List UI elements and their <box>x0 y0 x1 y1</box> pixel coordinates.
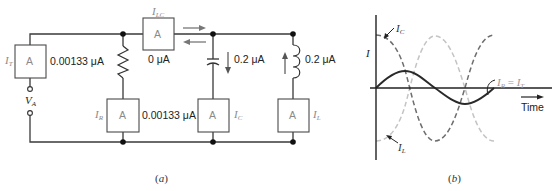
meter-ir-reading: 0.00133 μA <box>142 109 196 121</box>
current-arrows-icon <box>183 25 206 45</box>
caption-a: (a) <box>155 172 168 185</box>
meter-it-glyph: A <box>26 55 33 67</box>
node-dot <box>210 139 216 145</box>
meter-it-reading: 0.00133 μA <box>50 55 104 67</box>
waveform-graph-b: I Time IC IL IR = IT (b) <box>365 15 552 185</box>
inductor-current-arrow-icon <box>282 52 288 74</box>
meter-ic-label: IC <box>233 108 243 122</box>
meter-il-label: IL <box>312 108 321 122</box>
caption-b: (b) <box>448 172 461 185</box>
meter-it-label: IT <box>4 54 14 68</box>
ic-pointer-icon <box>384 28 394 39</box>
meter-ic-glyph: A <box>209 109 216 121</box>
capacitor-current-arrow-icon <box>225 52 231 74</box>
node-dot <box>210 31 216 37</box>
node-dot <box>290 139 296 145</box>
x-axis-label: Time <box>521 101 544 113</box>
ic-curve-label: IC <box>395 22 405 36</box>
figure-canvas: A IT 0.00133 μA VA A IR 0.00133 μA A ILC… <box>0 0 552 191</box>
node-dot <box>290 31 296 37</box>
source-label: VA <box>25 94 37 108</box>
terminal-bottom-icon <box>28 111 33 116</box>
capacitor-current-reading: 0.2 μA <box>234 53 265 65</box>
meter-ilc-label: ILC <box>151 5 165 19</box>
y-axis-label: I <box>365 47 371 59</box>
circuit-diagram-a: A IT 0.00133 μA VA A IR 0.00133 μA A ILC… <box>4 5 336 185</box>
meter-ir-glyph: A <box>119 109 126 121</box>
meter-ir-label: IR <box>94 108 104 122</box>
meter-il-glyph: A <box>289 109 296 121</box>
terminal-top-icon <box>28 87 33 92</box>
inductor-icon <box>293 45 300 78</box>
time-arrow-icon <box>521 95 544 100</box>
inductor-current-reading: 0.2 μA <box>305 53 336 65</box>
il-pointer-icon <box>386 135 398 143</box>
ir-it-curve-label: IR = IT <box>496 76 525 90</box>
node-dot <box>120 139 126 145</box>
meter-ilc-reading: 0 μA <box>148 53 170 65</box>
meter-ilc-glyph: A <box>154 28 161 40</box>
node-dot <box>120 31 126 37</box>
il-curve-label: IL <box>397 141 406 155</box>
resistor-icon <box>118 46 128 78</box>
